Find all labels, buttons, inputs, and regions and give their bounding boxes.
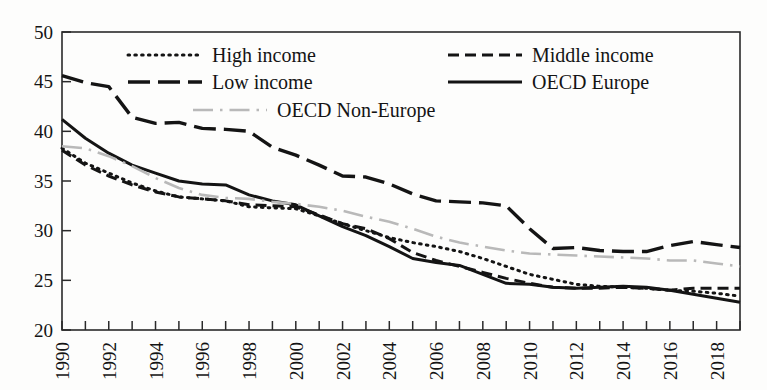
- y-tick-label: 30: [34, 220, 53, 241]
- series-line-middle-income: [62, 150, 740, 290]
- x-tick-label: 2002: [333, 342, 354, 380]
- x-tick-label: 2018: [707, 342, 728, 380]
- legend-item-high-income: High income: [128, 44, 316, 67]
- legend-item-low-income: Low income: [128, 71, 313, 93]
- y-tick-label: 20: [34, 320, 53, 341]
- x-tick-label: 1990: [52, 342, 73, 380]
- series-line-high-income: [62, 148, 740, 296]
- chart-container: 20253035404550 1990199219941996199820002…: [0, 0, 767, 390]
- x-tick-label: 2004: [379, 342, 400, 381]
- series-line-oecd-non-europe: [62, 146, 740, 266]
- legend-item-oecd-europe: OECD Europe: [448, 71, 649, 94]
- legend-label: OECD Europe: [532, 71, 649, 94]
- legend-item-middle-income: Middle income: [448, 44, 654, 66]
- x-tick-label: 2012: [566, 342, 587, 380]
- x-tick-label: 2006: [426, 342, 447, 380]
- legend-label: High income: [212, 44, 316, 67]
- y-tick-label: 45: [34, 71, 53, 92]
- y-axis-labels: 20253035404550: [34, 22, 53, 341]
- y-tick-label: 35: [34, 171, 53, 192]
- x-axis-labels: 1990199219941996199820002002200420062008…: [52, 342, 728, 381]
- line-chart: 20253035404550 1990199219941996199820002…: [0, 0, 767, 390]
- legend-label: OECD Non-Europe: [277, 99, 435, 122]
- x-tick-label: 2016: [660, 342, 681, 380]
- x-tick-label: 1992: [99, 342, 120, 380]
- y-tick-label: 40: [34, 121, 53, 142]
- y-tick-label: 50: [34, 22, 53, 43]
- legend-label: Middle income: [532, 44, 654, 66]
- y-tick-label: 25: [34, 270, 53, 291]
- x-tick-label: 2010: [520, 342, 541, 380]
- x-tick-label: 1996: [192, 342, 213, 380]
- x-tick-label: 1998: [239, 342, 260, 380]
- legend-label: Low income: [212, 71, 313, 93]
- x-tick-label: 2008: [473, 342, 494, 380]
- series-line-oecd-europe: [62, 119, 740, 302]
- x-tick-label: 1994: [146, 342, 167, 381]
- x-tick-label: 2000: [286, 342, 307, 380]
- legend-item-oecd-non-europe: OECD Non-Europe: [193, 99, 435, 122]
- x-axis-ticks: [62, 321, 740, 330]
- x-tick-label: 2014: [613, 342, 634, 381]
- chart-legend: High incomeMiddle incomeLow incomeOECD E…: [128, 44, 654, 122]
